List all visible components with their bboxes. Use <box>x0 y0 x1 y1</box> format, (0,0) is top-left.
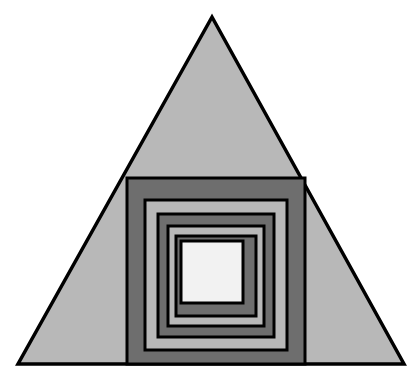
figure-canvas <box>0 0 419 384</box>
square-center-white-shape <box>181 241 243 303</box>
nested-shapes-figure <box>0 0 419 384</box>
